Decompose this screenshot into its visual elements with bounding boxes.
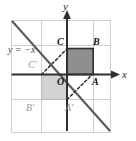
point-label-A: A: [92, 77, 99, 87]
y-axis-label: y: [63, 1, 68, 12]
axes: [12, 14, 117, 131]
point-label-A-prime: A′: [65, 103, 73, 113]
point-label-O: O: [57, 77, 64, 87]
square-preimage-q1: [67, 49, 93, 75]
figure-canvas: [0, 0, 136, 141]
x-axis-label: x: [122, 69, 127, 80]
point-label-C: C: [57, 37, 64, 47]
point-label-C-prime: C′: [28, 60, 37, 70]
x-axis-arrowhead: [111, 71, 120, 79]
coordinate-plane-figure: y x y = −x O C B A C′ B′ A′: [0, 0, 136, 141]
point-label-B-prime: B′: [26, 103, 34, 113]
line-equation-label: y = −x: [8, 45, 35, 55]
point-label-B: B: [93, 37, 100, 47]
